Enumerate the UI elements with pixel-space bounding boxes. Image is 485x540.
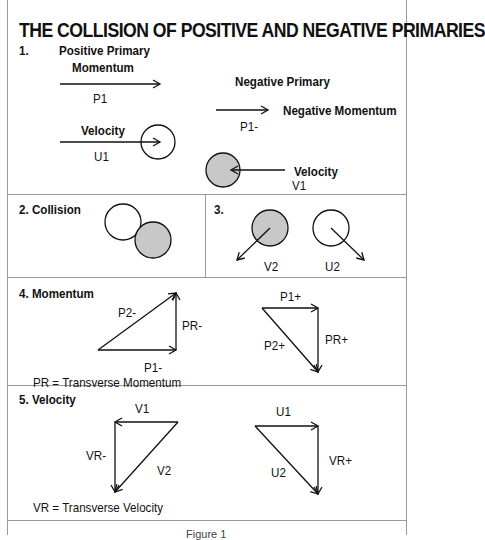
v2-vector [115, 422, 178, 492]
momentum-label: Momentum [72, 61, 134, 75]
v1-label: V1 [292, 179, 306, 193]
section4-label: 4. Momentum [19, 287, 94, 301]
negative-momentum-label: Negative Momentum [283, 104, 397, 118]
velocity-legend: VR = Transverse Velocity [33, 501, 163, 515]
u2-arrow [331, 228, 364, 260]
positive-primary-label: Positive Primary [59, 44, 150, 58]
negative-primary-label: Negative Primary [235, 75, 330, 89]
p1-minus-label-4: P1- [144, 361, 162, 375]
vr-plus-label: VR+ [329, 454, 352, 468]
p1-minus-label: P1- [240, 120, 258, 134]
collision-circle-negative [135, 222, 171, 258]
pr-plus-label: PR+ [325, 333, 348, 347]
pr-minus-label: PR- [182, 319, 202, 333]
p2-minus-label: P2- [118, 306, 136, 320]
p2-minus-vector [98, 293, 176, 350]
u1-label: U1 [94, 150, 109, 164]
v2-label: V2 [264, 260, 278, 274]
vr-minus-label: VR- [86, 449, 106, 463]
figure-caption: Figure 1 [186, 529, 226, 540]
velocity-label: Velocity [81, 124, 125, 138]
u2-vector [255, 426, 318, 494]
section5-label: 5. Velocity [19, 393, 76, 407]
section3-label: 3. [214, 203, 224, 217]
page-title: THE COLLISION OF POSITIVE AND NEGATIVE P… [19, 20, 485, 41]
v2-label-5: V2 [157, 464, 171, 478]
section1-number: 1. [19, 44, 29, 58]
p1-label: P1 [93, 92, 107, 106]
neg-velocity-label: Velocity [294, 165, 338, 179]
u1-label-5: U1 [276, 405, 291, 419]
u2-label: U2 [325, 260, 340, 274]
v1-label-5: V1 [135, 402, 149, 416]
u2-label-5: U2 [271, 466, 286, 480]
p2-plus-label: P2+ [264, 339, 285, 353]
p1-plus-label: P1+ [280, 290, 301, 304]
momentum-legend: PR = Transverse Momentum [33, 376, 181, 390]
section2-label: 2. Collision [19, 203, 81, 217]
